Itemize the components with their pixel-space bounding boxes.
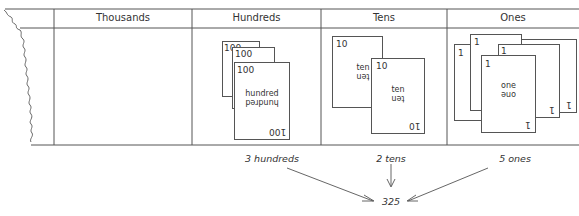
result-number: 325	[372, 196, 410, 207]
one-card: 1 one one 1	[481, 55, 536, 133]
header-tens: Tens	[321, 8, 447, 28]
header-ones: Ones	[447, 8, 579, 28]
ten-card: 10 ten ten 10	[371, 58, 425, 134]
hundred-card: 100 hundred hundred 100	[234, 62, 290, 140]
caption-hundreds: 3 hundreds	[232, 153, 312, 164]
caption-ones: 5 ones	[480, 153, 550, 164]
header-hundreds: Hundreds	[192, 8, 321, 28]
caption-tens: 2 tens	[361, 153, 421, 164]
header-thousands: Thousands	[54, 8, 192, 28]
